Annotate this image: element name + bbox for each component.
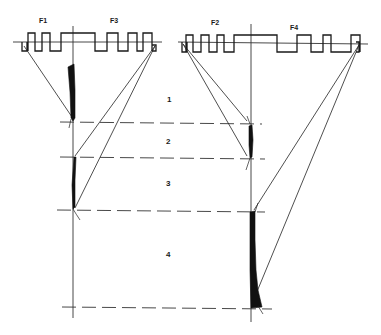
boundary-3-4: [57, 210, 265, 212]
ray-f4-a: [254, 45, 359, 210]
right-panel: F2 F4: [178, 19, 368, 322]
zone-label-1: 1: [167, 95, 172, 104]
boundary-4-bottom: [62, 307, 272, 309]
focal-tail: [246, 158, 250, 170]
focal-tick: [247, 116, 250, 124]
boundary-2-3: [60, 157, 265, 159]
focal-tick: [69, 119, 71, 128]
ray-f2-b: [183, 44, 247, 156]
label-f4: F4: [290, 24, 298, 31]
right-baseline: [178, 42, 368, 44]
ray-f4-b: [256, 45, 359, 294]
zone-label-2: 2: [166, 137, 171, 146]
zone-labels: 1 2 3 4: [166, 95, 172, 259]
ray-f2-a: [183, 44, 247, 121]
ray-f3-a: [75, 46, 155, 156]
left-panel: F1 F3: [13, 17, 272, 318]
label-f1: F1: [39, 17, 47, 24]
focal-curve-zone4-right: [250, 211, 262, 308]
label-f2: F2: [211, 19, 219, 26]
ray-f3-b: [75, 46, 155, 208]
ray-f1-left: [24, 46, 72, 117]
optical-diagram: F1 F3 F2 F4: [0, 0, 381, 335]
focal-curve-zone2-right: [249, 125, 253, 158]
label-f3: F3: [110, 17, 118, 24]
zone-label-4: 4: [166, 250, 171, 259]
boundary-1-2: [60, 122, 262, 124]
zone-label-3: 3: [166, 179, 171, 188]
